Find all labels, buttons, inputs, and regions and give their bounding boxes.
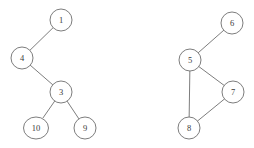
node-label: 6 xyxy=(230,18,234,28)
graph-node[interactable]: 9 xyxy=(74,117,96,139)
node-label: 9 xyxy=(83,123,87,133)
graph-node[interactable]: 3 xyxy=(50,81,72,103)
graph-edge xyxy=(43,101,55,118)
edge-layer xyxy=(30,28,225,121)
graph-edge xyxy=(199,67,224,86)
node-label: 7 xyxy=(231,87,235,97)
graph-edge xyxy=(189,71,190,117)
graph-surface: 1431096578 xyxy=(0,0,254,148)
node-label: 8 xyxy=(187,123,191,133)
graph-node[interactable]: 10 xyxy=(24,117,49,139)
graph-edge xyxy=(67,101,79,119)
graph-node[interactable]: 4 xyxy=(11,47,33,69)
graph-node[interactable]: 7 xyxy=(222,81,244,103)
graph-node[interactable]: 6 xyxy=(221,12,243,34)
node-label: 3 xyxy=(59,87,63,97)
graph-edge xyxy=(198,99,225,121)
graph-edge xyxy=(30,28,53,51)
graph-node[interactable]: 8 xyxy=(178,117,200,139)
graph-edge xyxy=(30,65,52,85)
graph-node[interactable]: 1 xyxy=(50,9,72,31)
node-label: 10 xyxy=(32,123,41,133)
node-label: 5 xyxy=(188,55,192,65)
node-label: 1 xyxy=(59,15,63,25)
graph-node[interactable]: 5 xyxy=(179,49,201,71)
graph-edge xyxy=(198,30,224,52)
graph-diagram-canvas: 1431096578 xyxy=(0,0,254,148)
